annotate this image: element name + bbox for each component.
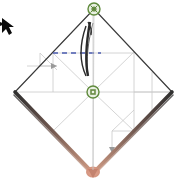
node-top[interactable] — [88, 3, 100, 15]
wireframe-viewport[interactable] — [0, 0, 186, 187]
lens-curve[interactable] — [81, 22, 93, 76]
pointer-arrow-icon[interactable] — [0, 18, 14, 35]
node-center[interactable] — [87, 86, 99, 98]
wireframe-canvas[interactable] — [0, 0, 186, 187]
